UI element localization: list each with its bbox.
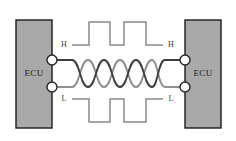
signal-label-h-right: H [168, 40, 174, 49]
connector-right-high[interactable] [180, 55, 190, 65]
signal-label-l-right: L [169, 94, 174, 103]
ecu-left-label: ECU [25, 68, 44, 78]
can-l-waveform [72, 99, 163, 122]
can-l-wire [52, 60, 185, 87]
can-bus-schematic: ECU ECU H H L L [0, 0, 236, 141]
signal-label-h-left: H [61, 40, 67, 49]
signal-label-l-left: L [62, 94, 67, 103]
connector-left-high[interactable] [47, 55, 57, 65]
connector-right-low[interactable] [180, 82, 190, 92]
twisted-pair-bundle [52, 60, 185, 87]
can-h-waveform [72, 22, 163, 45]
ecu-right-label: ECU [194, 68, 213, 78]
ecu-right-node: ECU [185, 20, 221, 128]
connector-left-low[interactable] [47, 82, 57, 92]
ecu-left-node: ECU [16, 20, 52, 128]
diagram-canvas: ECU ECU H H L L [0, 0, 236, 141]
can-h-wire [52, 60, 185, 87]
